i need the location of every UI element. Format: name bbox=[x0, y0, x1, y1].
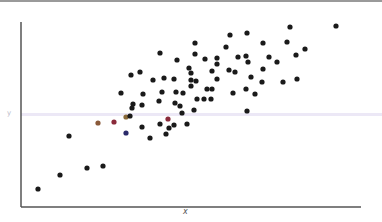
data-point bbox=[156, 98, 161, 103]
data-point bbox=[188, 83, 193, 88]
data-point bbox=[333, 23, 338, 28]
data-point bbox=[139, 102, 144, 107]
data-point bbox=[193, 78, 198, 83]
data-point bbox=[284, 39, 289, 44]
data-point bbox=[194, 96, 199, 101]
data-point bbox=[35, 186, 40, 191]
y-axis-label: y bbox=[7, 109, 11, 117]
data-point bbox=[244, 108, 249, 113]
data-point bbox=[293, 52, 298, 57]
data-point bbox=[230, 90, 235, 95]
data-point bbox=[202, 56, 207, 61]
data-point bbox=[245, 59, 250, 64]
x-axis-label: x bbox=[183, 207, 188, 216]
data-point bbox=[294, 76, 299, 81]
data-point bbox=[188, 70, 193, 75]
data-point bbox=[166, 125, 171, 130]
data-point bbox=[150, 77, 155, 82]
data-point bbox=[137, 69, 142, 74]
data-point bbox=[173, 89, 178, 94]
data-point bbox=[260, 66, 265, 71]
data-point bbox=[57, 172, 62, 177]
data-point bbox=[84, 165, 89, 170]
data-point bbox=[177, 103, 182, 108]
data-point bbox=[66, 133, 71, 138]
data-point bbox=[192, 40, 197, 45]
data-point bbox=[226, 67, 231, 72]
data-point bbox=[287, 24, 292, 29]
data-point bbox=[128, 72, 133, 77]
data-point bbox=[163, 131, 168, 136]
data-point bbox=[209, 86, 214, 91]
data-point bbox=[100, 163, 105, 168]
data-point bbox=[95, 120, 100, 125]
scatter-plot bbox=[0, 0, 382, 222]
data-point bbox=[139, 124, 144, 129]
data-point bbox=[266, 54, 271, 59]
data-point bbox=[244, 30, 249, 35]
data-point bbox=[248, 74, 253, 79]
data-point bbox=[140, 91, 145, 96]
data-point bbox=[243, 86, 248, 91]
data-point bbox=[171, 122, 176, 127]
data-point bbox=[188, 77, 193, 82]
data-point bbox=[192, 51, 197, 56]
data-point bbox=[191, 107, 196, 112]
data-point bbox=[260, 40, 265, 45]
data-point bbox=[201, 96, 206, 101]
data-point bbox=[243, 53, 248, 58]
reference-band bbox=[21, 113, 382, 116]
data-point bbox=[208, 96, 213, 101]
data-point bbox=[159, 89, 164, 94]
data-points bbox=[35, 23, 338, 191]
data-point bbox=[165, 116, 170, 121]
data-point bbox=[180, 90, 185, 95]
data-point bbox=[174, 57, 179, 62]
data-point bbox=[118, 90, 123, 95]
data-point bbox=[204, 86, 209, 91]
data-point bbox=[186, 65, 191, 70]
data-point bbox=[129, 105, 134, 110]
data-point bbox=[184, 121, 189, 126]
data-point bbox=[179, 110, 184, 115]
data-point bbox=[232, 69, 237, 74]
data-point bbox=[302, 46, 307, 51]
data-point bbox=[157, 50, 162, 55]
data-point bbox=[235, 54, 240, 59]
data-point bbox=[161, 75, 166, 80]
data-point bbox=[274, 59, 279, 64]
data-point bbox=[227, 32, 232, 37]
data-point bbox=[147, 135, 152, 140]
data-point bbox=[259, 79, 264, 84]
data-point bbox=[127, 113, 132, 118]
data-point bbox=[252, 91, 257, 96]
data-point bbox=[214, 61, 219, 66]
data-point bbox=[111, 119, 116, 124]
data-point bbox=[223, 44, 228, 49]
data-point bbox=[280, 79, 285, 84]
data-point bbox=[157, 121, 162, 126]
data-point bbox=[214, 76, 219, 81]
data-point bbox=[172, 100, 177, 105]
data-point bbox=[123, 130, 128, 135]
data-point bbox=[209, 68, 214, 73]
data-point bbox=[214, 55, 219, 60]
data-point bbox=[171, 76, 176, 81]
